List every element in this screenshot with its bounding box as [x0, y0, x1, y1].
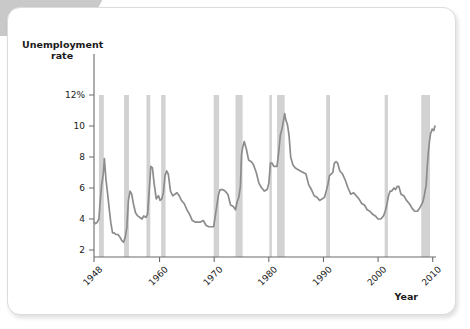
- recession-bands-group: [99, 95, 430, 257]
- x-tick-label: 2000: [365, 264, 388, 287]
- unemployment-rate-chart: 12%108642 1948196019701980199020002010 U…: [8, 8, 456, 315]
- y-axis-title-line2: rate: [51, 50, 73, 61]
- x-tick-label: 1960: [147, 264, 170, 287]
- y-tick-label: 4: [79, 214, 85, 224]
- y-ticks-group: 12%108642: [65, 90, 94, 255]
- x-tick-label: 1948: [81, 264, 104, 287]
- x-ticks-group: 1948196019701980199020002010: [81, 257, 443, 288]
- y-axis-title-line1: Unemployment: [22, 39, 104, 50]
- unemployment-rate-line: [94, 114, 435, 243]
- recession-band: [385, 95, 388, 257]
- recession-band: [214, 95, 219, 257]
- y-tick-label: 8: [79, 152, 85, 162]
- x-tick-label: 2010: [420, 264, 443, 287]
- figure-root: 12%108642 1948196019701980199020002010 U…: [0, 0, 470, 329]
- x-tick-label: 1970: [201, 264, 224, 287]
- x-tick-label: 1990: [311, 264, 334, 287]
- x-tick-label: 1980: [256, 264, 279, 287]
- y-tick-label: 6: [79, 183, 85, 193]
- chart-card: 12%108642 1948196019701980199020002010 U…: [7, 7, 456, 315]
- y-tick-label: 2: [79, 245, 85, 255]
- recession-band: [421, 95, 430, 257]
- y-tick-label: 12%: [65, 90, 85, 100]
- y-tick-label: 10: [74, 121, 86, 131]
- x-axis-title: Year: [393, 291, 418, 302]
